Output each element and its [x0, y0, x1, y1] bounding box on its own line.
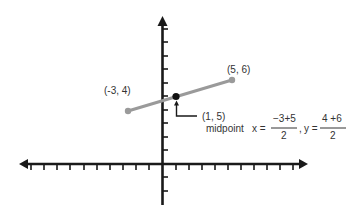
left-point-label: (-3, 4) — [104, 85, 131, 96]
left-endpoint — [125, 108, 131, 114]
y-axis — [158, 16, 169, 205]
x-axis-right-arrow-icon — [299, 159, 308, 169]
formula-x-numerator: −3+5 — [273, 113, 296, 124]
formula-x-denominator: 2 — [281, 130, 287, 141]
formula-x-prefix: x = — [252, 123, 266, 134]
right-point-label: (5, 6) — [227, 64, 250, 75]
x-axis-left-arrow-icon — [19, 159, 28, 169]
coordinate-plane-diagram: (-3, 4) (5, 6) (1, 5) midpoint x = −3+5 … — [0, 0, 353, 214]
midpoint-coordinate-label: (1, 5) — [202, 111, 225, 122]
midpoint-dot — [172, 93, 179, 100]
formula-y-denominator: 2 — [330, 130, 336, 141]
midpoint-pointer-arrow-icon — [174, 101, 197, 117]
midpoint-caption: midpoint — [206, 123, 244, 134]
y-axis-up-arrow-icon — [158, 16, 168, 26]
formula-y-prefix: y = — [304, 123, 318, 134]
formula-separator: , — [299, 123, 302, 134]
midpoint-formula: x = −3+5 2 , y = 4 +6 2 — [252, 113, 346, 141]
formula-y-numerator: 4 +6 — [322, 113, 342, 124]
right-endpoint — [229, 77, 235, 83]
line-segment — [125, 77, 235, 114]
